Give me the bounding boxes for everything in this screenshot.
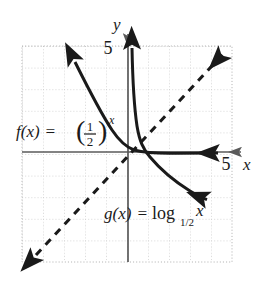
g-name: g xyxy=(104,204,113,223)
f-equals: = xyxy=(45,122,56,141)
coordinate-plane: y 5 x 5 f(x)= ( 1 2 ) x g(x)= log 1/2 x xyxy=(0,0,259,282)
f-denominator: 2 xyxy=(87,134,94,149)
f-exponent: x xyxy=(108,113,115,127)
f-numerator: 1 xyxy=(87,119,94,134)
y-axis-label: y xyxy=(111,15,121,34)
g-equals: = xyxy=(136,204,147,223)
g-argument: (x) xyxy=(113,204,132,223)
f-paren-open: ( xyxy=(76,115,85,146)
y-tick-5: 5 xyxy=(104,38,113,58)
f-paren-close: ) xyxy=(98,115,107,146)
g-log-base: 1/2 xyxy=(180,216,194,228)
g-variable: x xyxy=(195,201,204,220)
svg-text:f(x)=: f(x)= xyxy=(16,122,56,141)
g-log-operator: log xyxy=(152,203,175,223)
graph-figure: y 5 x 5 f(x)= ( 1 2 ) x g(x)= log 1/2 x xyxy=(0,0,259,282)
f-argument: (x) xyxy=(21,122,40,141)
x-axis-label: x xyxy=(242,155,251,174)
x-tick-5: 5 xyxy=(222,154,231,174)
svg-text:g(x)=: g(x)= xyxy=(104,204,148,223)
